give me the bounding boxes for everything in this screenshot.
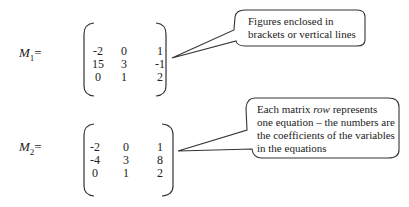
callout-2-line: the coefficients of the variables: [257, 129, 395, 142]
callout-2-text: Each matrix row represents one equation …: [257, 103, 395, 155]
matrix-cell: 0: [86, 167, 104, 180]
callout-1-line: brackets or vertical lines: [248, 28, 356, 41]
matrix-cell: 2: [151, 167, 169, 180]
matrix-cell: 2: [151, 71, 169, 84]
callout-2-line: one equation – the numbers are: [257, 116, 395, 129]
callout-2-line: in the equations: [257, 142, 395, 155]
callout-1-line: Figures enclosed in: [248, 15, 356, 28]
callout-1-text: Figures enclosed in brackets or vertical…: [248, 15, 356, 41]
callout-2-emphasis: row: [313, 103, 330, 115]
callout-2-line: Each matrix row represents: [257, 103, 395, 116]
callout-2-line1-post: represents: [330, 103, 377, 115]
matrix-cell: 1: [115, 71, 133, 84]
matrix-cell: 0: [89, 71, 107, 84]
matrix-cell: 1: [117, 167, 135, 180]
callout-2-line1-pre: Each matrix: [257, 103, 313, 115]
